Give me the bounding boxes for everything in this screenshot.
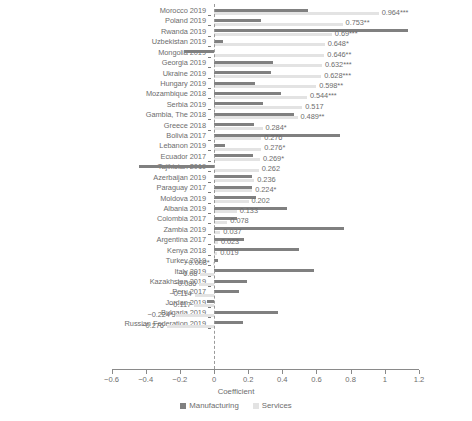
value-label: 0.628***: [324, 72, 351, 80]
x-axis-tick: [248, 370, 249, 374]
bar-manufacturing: [214, 71, 271, 74]
category-label: Ecuador 2017: [0, 153, 206, 161]
zero-reference-line: [214, 4, 215, 369]
y-axis-tick: [208, 234, 211, 235]
y-axis-tick: [208, 88, 211, 89]
value-label: 0.078: [230, 217, 248, 225]
y-axis-tick: [208, 36, 211, 37]
value-label: 0.276: [264, 134, 282, 142]
bar-services: [214, 179, 254, 182]
bar-services: [199, 283, 214, 286]
bar-services: [214, 116, 298, 119]
x-axis-title: Coefficient: [0, 387, 472, 397]
value-label: 0.598**: [319, 82, 343, 90]
value-label: 0.544***: [310, 92, 337, 100]
y-axis-tick: [208, 109, 211, 110]
y-axis-tick: [208, 130, 211, 131]
bar-manufacturing: [214, 321, 243, 324]
x-axis-tick: [385, 370, 386, 374]
value-label: 0.489**: [301, 113, 325, 121]
bar-manufacturing: [214, 154, 253, 157]
y-axis-tick: [208, 192, 211, 193]
legend-item[interactable]: Services: [253, 401, 292, 411]
category-label: Turkey 2019: [0, 257, 206, 265]
category-label: Uzbekistan 2019: [0, 38, 206, 46]
y-axis-tick: [208, 244, 211, 245]
y-axis-tick: [208, 98, 211, 99]
bar-services: [194, 304, 214, 307]
y-axis-tick: [208, 140, 211, 141]
bar-services: [214, 210, 237, 213]
x-axis-tick: [419, 370, 420, 374]
category-label: Gambia, The 2018: [0, 111, 206, 119]
y-axis-tick: [208, 182, 211, 183]
value-label: 0.202: [252, 197, 270, 205]
bar-manufacturing: [184, 50, 214, 53]
y-axis-tick: [208, 78, 211, 79]
y-axis-tick: [208, 171, 211, 172]
bar-services: [214, 64, 322, 67]
value-label: 0.284*: [266, 124, 287, 132]
category-label: Albania 2019: [0, 205, 206, 213]
bar-services: [214, 23, 343, 26]
bar-manufacturing: [207, 300, 214, 303]
x-axis-tick: [351, 370, 352, 374]
bar-manufacturing: [214, 29, 408, 32]
value-label: 0.648*: [328, 40, 349, 48]
bar-manufacturing: [214, 280, 247, 283]
value-label: 0.224*: [255, 186, 276, 194]
category-label: Moldova 2019: [0, 195, 206, 203]
bar-services: [214, 158, 260, 161]
category-label: Paraguay 2017: [0, 184, 206, 192]
bar-services: [214, 221, 227, 224]
bar-services: [176, 314, 214, 317]
x-axis-tick: [112, 370, 113, 374]
bar-manufacturing: [214, 311, 278, 314]
value-label: 0.964***: [382, 9, 409, 17]
legend-item[interactable]: Manufacturing: [180, 401, 238, 411]
category-label: Mongolia 2019: [0, 49, 206, 57]
value-label: −0.008*: [184, 259, 209, 267]
bar-manufacturing: [214, 175, 252, 178]
value-label: 0.753**: [346, 19, 370, 27]
bar-manufacturing: [214, 113, 294, 116]
bar-services: [195, 294, 214, 297]
value-label: 0.133: [240, 207, 258, 215]
bar-manufacturing: [214, 123, 254, 126]
bar-services: [214, 169, 259, 172]
y-axis-tick: [208, 46, 211, 47]
y-axis-tick: [208, 119, 211, 120]
bar-manufacturing: [214, 9, 308, 12]
value-label: 0.023: [221, 238, 239, 246]
category-label: Georgia 2019: [0, 59, 206, 67]
bar-services: [214, 75, 321, 78]
y-axis-tick: [208, 15, 211, 16]
bar-manufacturing: [214, 290, 239, 293]
value-label: 0.646**: [327, 51, 351, 59]
bar-services: [214, 54, 324, 57]
value-label: 0.236: [257, 176, 275, 184]
category-label: Greece 2018: [0, 122, 206, 130]
y-axis-tick: [208, 203, 211, 204]
bar-manufacturing: [214, 19, 261, 22]
category-label: Morocco 2019: [0, 7, 206, 15]
category-label: Italy 2019: [0, 268, 206, 276]
legend-swatch-icon: [180, 403, 186, 409]
category-label: Kenya 2018: [0, 247, 206, 255]
y-axis-tick: [208, 255, 211, 256]
bar-services: [214, 189, 252, 192]
y-axis-tick: [208, 57, 211, 58]
bar-services: [167, 325, 214, 328]
coefficient-bar-chart: Morocco 20190.964***Poland 20190.753**Rw…: [0, 0, 472, 421]
x-axis-tick: [180, 370, 181, 374]
x-axis-tick: [146, 370, 147, 374]
bar-services: [214, 106, 302, 109]
bar-manufacturing: [214, 196, 256, 199]
bar-manufacturing: [214, 102, 263, 105]
category-label: Argentina 2017: [0, 236, 206, 244]
category-label: Mozambique 2018: [0, 90, 206, 98]
legend-label: Manufacturing: [189, 401, 238, 410]
value-label: 0.262: [262, 165, 280, 173]
category-label: Azerbaijan 2019: [0, 174, 206, 182]
category-label: Bolivia 2017: [0, 132, 206, 140]
